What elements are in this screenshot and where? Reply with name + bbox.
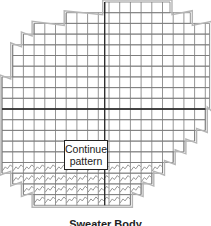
stitch-symbol-icon [109, 186, 119, 192]
stitch-symbol-icon [88, 197, 98, 203]
stitch-symbol-icon [24, 176, 34, 182]
stitch-symbol-icon [99, 176, 109, 182]
stitch-symbol-icon [88, 186, 98, 192]
stitch-symbol-icon [24, 186, 34, 192]
stitch-symbol-icon [109, 176, 119, 182]
stitch-symbol-icon [131, 176, 141, 182]
stitch-symbol-icon [99, 197, 109, 203]
stitch-symbol-icon [99, 186, 109, 192]
stitch-symbol-icon [109, 197, 119, 203]
stitch-symbol-icon [13, 165, 23, 171]
stitch-symbol-icon [131, 165, 141, 171]
stitch-symbol-icon [120, 197, 130, 203]
stitch-symbol-icon [120, 186, 130, 192]
stitch-symbol-icon [56, 197, 66, 203]
stitch-symbol-icon [141, 176, 151, 182]
stitch-symbol-icon [45, 165, 55, 171]
stitch-symbol-icon [67, 197, 77, 203]
stitch-symbol-icon [120, 165, 130, 171]
stitch-symbol-icon [88, 176, 98, 182]
stitch-symbol-icon [109, 165, 119, 171]
note-line-1: Continue [65, 143, 107, 155]
stitch-symbol-icon [56, 186, 66, 192]
stitch-symbol-icon [77, 186, 87, 192]
stitch-symbol-icon [131, 186, 141, 192]
stitch-symbol-icon [24, 165, 34, 171]
stitch-symbol-icon [2, 165, 12, 171]
stitch-symbol-icon [120, 176, 130, 182]
stitch-symbol-icon [77, 197, 87, 203]
stitch-symbol-icon [67, 176, 77, 182]
stitch-symbol-icon [56, 176, 66, 182]
stitch-symbol-icon [34, 176, 44, 182]
note-line-2: pattern [65, 155, 107, 167]
stitch-symbol-icon [34, 197, 44, 203]
continue-pattern-note: Continue pattern [64, 140, 108, 170]
stitch-symbol-icon [34, 165, 44, 171]
stitch-symbol-icon [141, 165, 151, 171]
stitch-symbol-icon [34, 186, 44, 192]
pattern-chart [0, 0, 211, 226]
stitch-symbol-icon [77, 176, 87, 182]
stitch-symbol-icon [45, 176, 55, 182]
stitch-symbol-icon [152, 165, 162, 171]
stitch-symbol-icon [45, 197, 55, 203]
stitch-symbol-icon [13, 176, 23, 182]
diagram-caption: Sweater Body [0, 218, 211, 226]
stitch-symbol-icon [45, 186, 55, 192]
stitch-symbol-icon [67, 186, 77, 192]
